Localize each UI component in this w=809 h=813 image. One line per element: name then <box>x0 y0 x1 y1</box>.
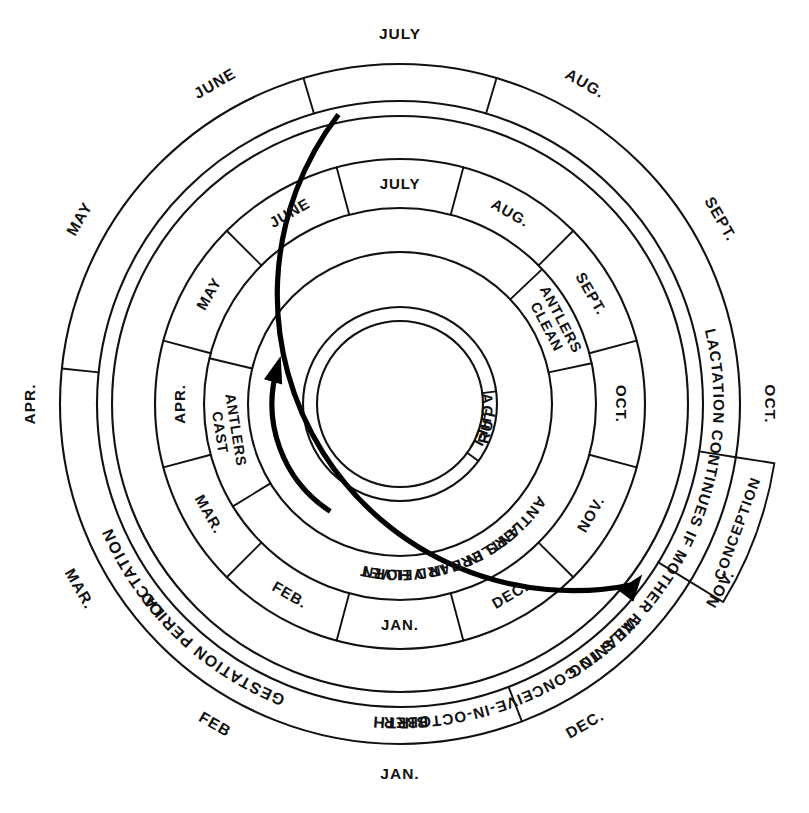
svg-text:APR.: APR. <box>21 383 38 424</box>
svg-text:OCT.: OCT. <box>762 384 779 423</box>
svg-text:JAN.: JAN. <box>381 616 419 633</box>
deer-cycle-diagram: JULYAUG.SEPT.OCT.NOV.DEC.JAN.FEBMAR.APR.… <box>0 0 809 813</box>
inner-month-label: JAN. <box>381 616 419 633</box>
svg-text:JULY: JULY <box>380 175 421 192</box>
outer-month-label: OCT. <box>762 384 779 423</box>
outer-month-label: JULY <box>379 25 421 42</box>
inner-month-label: APR. <box>171 384 188 423</box>
svg-text:OCT.: OCT. <box>613 385 630 423</box>
svg-text:APR.: APR. <box>171 384 188 423</box>
outer-month-label: JAN. <box>380 765 419 782</box>
inner-month-label: OCT. <box>613 385 630 423</box>
outer-month-label: APR. <box>21 383 38 424</box>
svg-text:JAN.: JAN. <box>380 765 419 782</box>
svg-text:JULY: JULY <box>379 25 421 42</box>
inner-month-label: JULY <box>380 175 421 192</box>
